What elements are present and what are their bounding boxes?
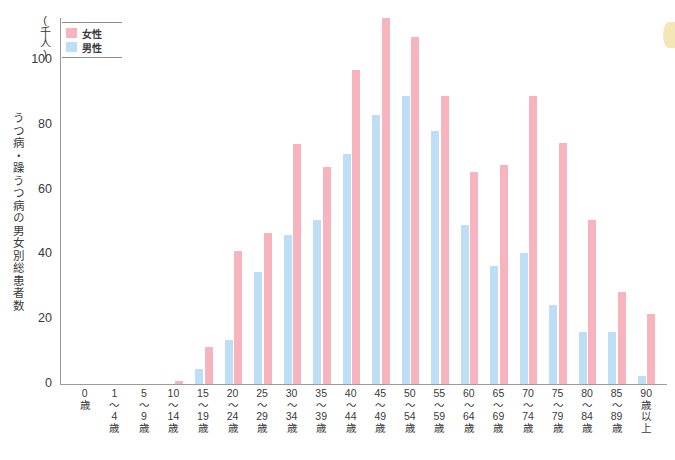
- bar-male[interactable]: [520, 253, 528, 384]
- bar-male[interactable]: [461, 225, 469, 384]
- bar-female[interactable]: [411, 37, 419, 384]
- x-axis-label-part: 85: [611, 388, 623, 400]
- bar-female[interactable]: [441, 96, 449, 384]
- x-axis-label-part: 歳: [168, 423, 178, 435]
- bar-groups: [61, 18, 667, 384]
- x-axis-label-part: 歳: [582, 423, 592, 435]
- bar-male[interactable]: [638, 376, 646, 384]
- bar-female[interactable]: [470, 172, 478, 384]
- x-axis-label-part: 歳: [198, 423, 208, 435]
- x-axis-label-part: 44: [345, 411, 357, 423]
- x-axis-label-part: 84: [581, 411, 593, 423]
- bar-female[interactable]: [618, 292, 626, 384]
- x-axis-label-part: 歳: [523, 423, 533, 435]
- x-axis-label-part: 10: [168, 388, 180, 400]
- bar-male[interactable]: [608, 332, 616, 384]
- bar-male[interactable]: [372, 115, 380, 384]
- bar-group: [219, 18, 249, 384]
- y-axis-tick-20: 20: [24, 311, 52, 325]
- y-axis-tick-0: 0: [24, 376, 52, 390]
- x-axis-label: 70〜74歳: [513, 388, 543, 458]
- x-axis-label-part: 14: [168, 411, 180, 423]
- legend-item-female: 女性: [66, 26, 118, 40]
- bar-female[interactable]: [559, 143, 567, 384]
- bar-female[interactable]: [500, 165, 508, 384]
- bar-male[interactable]: [284, 235, 292, 384]
- bar-male[interactable]: [549, 305, 557, 384]
- bar-male[interactable]: [343, 154, 351, 384]
- bar-group: [425, 18, 455, 384]
- x-axis-label-part: 上: [641, 423, 651, 435]
- x-axis-label-part: 70: [522, 388, 534, 400]
- x-axis-label-part: 64: [463, 411, 475, 423]
- bar-group: [602, 18, 632, 384]
- page-edge-mark-icon: [663, 22, 675, 48]
- x-axis-label-part: 歳: [612, 423, 622, 435]
- x-axis-label-part: 90: [640, 388, 652, 400]
- x-axis-label-part: 以: [641, 411, 651, 423]
- bar-male[interactable]: [431, 131, 439, 384]
- bar-group: [248, 18, 278, 384]
- x-axis-label-part: 歳: [434, 423, 444, 435]
- bar-female[interactable]: [382, 18, 390, 384]
- x-axis-label-part: 歳: [405, 423, 415, 435]
- x-axis-label: 75〜79歳: [543, 388, 573, 458]
- bar-group: [484, 18, 514, 384]
- bar-female[interactable]: [293, 144, 301, 384]
- bar-female[interactable]: [647, 314, 655, 384]
- y-axis-tick-60: 60: [24, 182, 52, 196]
- y-axis-tick-40: 40: [24, 246, 52, 260]
- x-axis-label-part: 69: [493, 411, 505, 423]
- legend-item-male: 男性: [66, 40, 118, 54]
- x-axis-label-part: 54: [404, 411, 416, 423]
- bar-female[interactable]: [529, 96, 537, 384]
- bar-female[interactable]: [323, 167, 331, 384]
- bar-male[interactable]: [254, 272, 262, 384]
- bar-female[interactable]: [205, 347, 213, 384]
- bar-male[interactable]: [313, 220, 321, 384]
- x-axis-label-part: 55: [433, 388, 445, 400]
- bar-group: [632, 18, 662, 384]
- x-axis-label: 5〜9歳: [129, 388, 159, 458]
- x-axis-label-part: 0: [82, 388, 88, 400]
- chart-legend: 女性 男性: [62, 22, 122, 58]
- x-axis-label-part: 59: [433, 411, 445, 423]
- x-axis-label-part: 1: [111, 388, 117, 400]
- bar-group: [366, 18, 396, 384]
- x-axis-label-part: 歳: [553, 423, 563, 435]
- x-axis-label-part: 9: [141, 411, 147, 423]
- bar-group: [337, 18, 367, 384]
- bar-female[interactable]: [234, 251, 242, 384]
- bar-male[interactable]: [579, 332, 587, 384]
- bar-male[interactable]: [402, 96, 410, 384]
- x-axis-label-part: 20: [227, 388, 239, 400]
- bar-female[interactable]: [175, 381, 183, 384]
- x-axis-label: 15〜19歳: [188, 388, 218, 458]
- y-axis-title: うつ病・躁うつ病の男女別総患者数: [8, 112, 24, 312]
- bar-group: [514, 18, 544, 384]
- bar-group: [278, 18, 308, 384]
- bar-male[interactable]: [195, 369, 203, 384]
- bar-male[interactable]: [225, 340, 233, 384]
- bar-female[interactable]: [588, 220, 596, 384]
- x-axis-label: 80〜84歳: [572, 388, 602, 458]
- x-axis-label-part: 89: [611, 411, 623, 423]
- x-axis-label-part: 歳: [287, 423, 297, 435]
- bar-group: [130, 18, 160, 384]
- x-axis-label-part: 34: [286, 411, 298, 423]
- bar-male[interactable]: [490, 266, 498, 384]
- legend-swatch-male-icon: [66, 42, 77, 52]
- x-axis-label-part: 25: [256, 388, 268, 400]
- bar-female[interactable]: [264, 233, 272, 384]
- y-axis-tick-100: 100: [24, 52, 52, 66]
- x-axis-label-part: 歳: [493, 423, 503, 435]
- plot-area: [60, 18, 667, 385]
- legend-label-male: 男性: [82, 40, 103, 55]
- bar-group: [101, 18, 131, 384]
- bar-group: [189, 18, 219, 384]
- bar-group: [543, 18, 573, 384]
- bar-group: [455, 18, 485, 384]
- bar-female[interactable]: [352, 70, 360, 384]
- x-axis-label-part: 24: [227, 411, 239, 423]
- x-axis-label-part: 4: [111, 411, 117, 423]
